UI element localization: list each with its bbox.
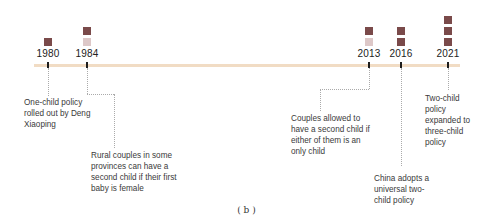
child-square-dark (44, 38, 52, 46)
connector-line (448, 68, 449, 90)
child-square-dark (83, 27, 91, 35)
child-square-dark (444, 16, 452, 24)
child-square-dark (397, 38, 405, 46)
connector-line (401, 68, 402, 166)
child-square-dark (365, 27, 373, 35)
child-square-light (365, 38, 373, 46)
timeline-bar (34, 64, 460, 67)
connector-line (87, 68, 88, 94)
child-square-dark (444, 27, 452, 35)
connector-line (320, 89, 369, 90)
child-square-dark (397, 27, 405, 35)
year-label-1984: 1984 (75, 48, 98, 59)
connector-line (87, 94, 114, 95)
connector-line (48, 68, 49, 96)
connector-line (114, 94, 115, 148)
year-label-2013: 2013 (357, 48, 380, 59)
connector-line (369, 68, 370, 89)
event-note-2013: Couples allowed to have a second child i… (291, 113, 373, 157)
connector-line (320, 89, 321, 111)
event-note-1984: Rural couples in some provinces can have… (91, 150, 181, 194)
year-label-2016: 2016 (389, 48, 412, 59)
figure-caption: ( b ) (0, 205, 493, 215)
year-label-2021: 2021 (436, 48, 459, 59)
year-label-1980: 1980 (36, 48, 59, 59)
event-note-1980: One-child policy rolled out by Deng Xiao… (24, 97, 104, 130)
child-square-light (83, 38, 91, 46)
event-note-2016: China adopts a universal two-child polic… (374, 173, 432, 206)
event-note-2021: Two-child policy expanded to three-child… (425, 93, 475, 148)
child-square-dark (444, 38, 452, 46)
